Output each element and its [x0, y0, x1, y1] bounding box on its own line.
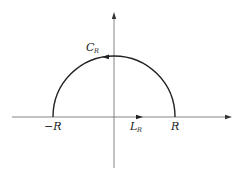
contour-diagram: −R R L R C R — [0, 0, 243, 175]
label-l-subscript: R — [136, 126, 142, 134]
real-axis-arrowhead-icon — [225, 115, 232, 119]
label-c-subscript: R — [93, 47, 99, 55]
label-minus-r: −R — [44, 120, 62, 133]
label-r: R — [170, 120, 179, 133]
segment-lr-arrow-icon — [136, 115, 143, 119]
contour-cr-arrow-icon — [102, 55, 109, 60]
imaginary-axis-arrowhead-icon — [112, 12, 116, 19]
